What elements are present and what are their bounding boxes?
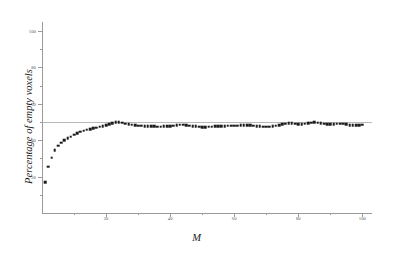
data-point [291,122,294,125]
data-point [140,125,143,128]
data-point [230,125,233,128]
x-tick-label: 100 [359,216,366,221]
y-tick-mark [38,31,42,32]
y-minor-tick [40,86,42,87]
data-point [278,124,281,127]
data-point [130,123,133,126]
data-point [156,125,159,128]
data-point [159,125,162,128]
data-point [342,123,345,126]
data-point [323,123,326,126]
y-axis-title: Percentage of empty voxels [23,37,34,217]
data-point [188,124,191,127]
data-point [60,141,63,144]
y-minor-tick [40,195,42,196]
x-minor-tick [202,213,203,215]
data-point [44,181,47,184]
data-point [239,124,242,127]
y-tick-mark [38,177,42,178]
data-point [332,123,335,126]
x-minor-tick [330,213,331,215]
data-point [351,124,354,127]
data-point [102,125,105,128]
data-point [275,124,278,127]
data-point [319,122,322,125]
data-point [70,135,73,138]
data-point [307,122,310,125]
data-point [284,122,287,125]
y-axis-line [42,22,43,214]
data-point [191,125,194,128]
data-point [303,122,306,125]
x-axis-line [42,213,372,214]
data-point [227,125,230,128]
data-point [162,125,165,128]
data-point [300,123,303,126]
data-point [339,122,342,125]
data-point [111,122,114,125]
data-point [316,121,319,124]
data-point [143,125,146,128]
chart-figure: 2040608010020406080100 Percentage of emp… [0,0,393,262]
data-point [262,125,265,128]
data-point [259,125,262,128]
data-point [252,124,255,127]
data-point [271,125,274,128]
data-point [236,124,239,127]
data-point [153,125,156,128]
data-point [146,125,149,128]
data-point [134,124,137,127]
data-point [98,125,101,128]
data-point [150,125,153,128]
x-tick-label: 40 [168,216,173,221]
data-point [287,122,290,125]
data-point [255,125,258,128]
data-point [329,123,332,126]
data-point [63,139,66,142]
data-point [326,123,329,126]
data-point [127,123,130,126]
data-point [79,131,82,134]
data-point [166,125,169,128]
data-point [335,123,338,126]
x-minor-tick [138,213,139,215]
data-point [361,123,364,126]
data-point [313,121,316,124]
x-tick-label: 20 [104,216,109,221]
data-point [233,124,236,127]
y-minor-tick [40,158,42,159]
data-point [182,123,185,126]
data-point [66,137,69,140]
data-point [358,124,361,127]
y-tick-mark [38,140,42,141]
data-point [310,121,313,124]
data-point [207,125,210,128]
data-point [348,124,351,127]
data-point [82,129,85,132]
data-point [89,128,92,131]
data-point [95,126,98,129]
data-point [50,156,53,159]
x-minor-tick [74,213,75,215]
data-point [124,122,127,125]
data-point [345,123,348,126]
data-point [185,124,188,127]
data-point [169,125,172,128]
data-point [204,126,207,129]
data-point [175,124,178,127]
data-point [249,124,252,127]
y-minor-tick [40,49,42,50]
data-point [217,125,220,128]
data-point [76,132,79,135]
data-point [201,126,204,129]
data-point [118,121,121,124]
data-point [86,129,89,132]
data-point [47,165,50,168]
data-point [246,124,249,127]
y-tick-mark [38,67,42,68]
data-point [198,125,201,128]
data-point [105,124,108,127]
data-point [137,124,140,127]
data-point [172,124,175,127]
data-point [194,125,197,128]
